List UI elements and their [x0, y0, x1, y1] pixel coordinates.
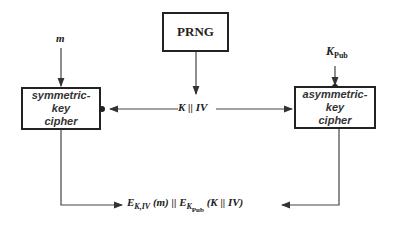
output-formula: EK,IV (m) || EKPub (K || IV): [127, 196, 243, 214]
symmetric-label-line1: symmetric-key: [23, 89, 99, 115]
asymmetric-label-line1: asymmetric-key: [296, 88, 374, 114]
asymmetric-label-line2: cipher: [318, 114, 351, 127]
symmetric-label-line2: cipher: [44, 115, 77, 128]
symmetric-cipher-box: symmetric-key cipher: [21, 87, 101, 130]
asymmetric-cipher-box: asymmetric-key cipher: [294, 86, 376, 129]
prng-label: PRNG: [177, 24, 214, 40]
message-label: m: [56, 32, 65, 44]
prng-box: PRNG: [162, 12, 229, 52]
public-key-label: KPub: [326, 44, 348, 60]
key-iv-label: K || IV: [178, 101, 207, 113]
